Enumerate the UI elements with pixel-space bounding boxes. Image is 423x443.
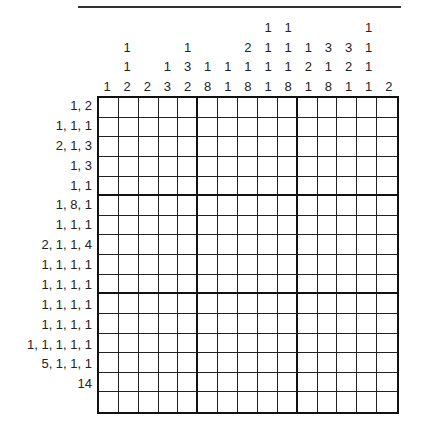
grid-cell[interactable] (278, 353, 298, 373)
grid-cell[interactable] (377, 235, 397, 255)
grid-cell[interactable] (218, 177, 238, 197)
grid-cell[interactable] (258, 216, 278, 236)
grid-cell[interactable] (218, 98, 238, 118)
grid-cell[interactable] (198, 235, 218, 255)
grid-cell[interactable] (159, 294, 179, 314)
grid-cell[interactable] (238, 314, 258, 334)
grid-cell[interactable] (357, 353, 377, 373)
grid-cell[interactable] (298, 314, 318, 334)
grid-cell[interactable] (357, 118, 377, 138)
grid-cell[interactable] (357, 275, 377, 295)
grid-cell[interactable] (198, 118, 218, 138)
grid-cell[interactable] (337, 157, 357, 177)
grid-cell[interactable] (198, 314, 218, 334)
grid-cell[interactable] (377, 177, 397, 197)
grid-cell[interactable] (238, 118, 258, 138)
grid-cell[interactable] (318, 137, 338, 157)
grid-cell[interactable] (337, 177, 357, 197)
grid-cell[interactable] (377, 216, 397, 236)
grid-cell[interactable] (119, 177, 139, 197)
grid-cell[interactable] (357, 137, 377, 157)
grid-cell[interactable] (278, 392, 298, 412)
grid-cell[interactable] (218, 137, 238, 157)
grid-cell[interactable] (159, 216, 179, 236)
grid-cell[interactable] (159, 137, 179, 157)
grid-cell[interactable] (119, 235, 139, 255)
grid-cell[interactable] (318, 334, 338, 354)
grid-cell[interactable] (139, 392, 159, 412)
grid-cell[interactable] (258, 118, 278, 138)
grid-cell[interactable] (119, 196, 139, 216)
grid-cell[interactable] (178, 196, 198, 216)
grid-cell[interactable] (178, 255, 198, 275)
grid-cell[interactable] (278, 137, 298, 157)
grid-cell[interactable] (298, 137, 318, 157)
grid-cell[interactable] (258, 294, 278, 314)
grid-cell[interactable] (337, 255, 357, 275)
grid-cell[interactable] (278, 255, 298, 275)
grid-cell[interactable] (218, 373, 238, 393)
grid-cell[interactable] (258, 334, 278, 354)
grid-cell[interactable] (159, 196, 179, 216)
grid-cell[interactable] (218, 294, 238, 314)
grid-cell[interactable] (318, 216, 338, 236)
grid-cell[interactable] (139, 177, 159, 197)
grid-cell[interactable] (218, 392, 238, 412)
grid-cell[interactable] (159, 98, 179, 118)
grid-cell[interactable] (298, 275, 318, 295)
grid-cell[interactable] (99, 98, 119, 118)
grid-cell[interactable] (377, 373, 397, 393)
grid-cell[interactable] (318, 196, 338, 216)
grid-cell[interactable] (258, 98, 278, 118)
grid-cell[interactable] (159, 314, 179, 334)
grid-cell[interactable] (99, 137, 119, 157)
grid-cell[interactable] (99, 118, 119, 138)
grid-cell[interactable] (258, 235, 278, 255)
grid-cell[interactable] (377, 392, 397, 412)
grid-cell[interactable] (119, 294, 139, 314)
grid-cell[interactable] (278, 216, 298, 236)
grid-cell[interactable] (178, 157, 198, 177)
grid-cell[interactable] (258, 177, 278, 197)
grid-cell[interactable] (278, 314, 298, 334)
grid-cell[interactable] (198, 392, 218, 412)
grid-cell[interactable] (198, 275, 218, 295)
grid-cell[interactable] (357, 196, 377, 216)
grid-cell[interactable] (357, 334, 377, 354)
grid-cell[interactable] (99, 392, 119, 412)
grid-cell[interactable] (357, 294, 377, 314)
grid-cell[interactable] (238, 294, 258, 314)
grid-cell[interactable] (357, 255, 377, 275)
grid-cell[interactable] (178, 98, 198, 118)
grid-cell[interactable] (198, 216, 218, 236)
grid-cell[interactable] (119, 392, 139, 412)
grid-cell[interactable] (178, 373, 198, 393)
grid-cell[interactable] (119, 216, 139, 236)
grid-cell[interactable] (218, 334, 238, 354)
grid-cell[interactable] (178, 294, 198, 314)
grid-cell[interactable] (178, 216, 198, 236)
grid-cell[interactable] (238, 392, 258, 412)
grid-cell[interactable] (198, 137, 218, 157)
grid-cell[interactable] (377, 255, 397, 275)
grid-cell[interactable] (99, 294, 119, 314)
grid-cell[interactable] (357, 392, 377, 412)
grid-cell[interactable] (337, 294, 357, 314)
grid-cell[interactable] (318, 373, 338, 393)
grid-cell[interactable] (238, 353, 258, 373)
grid-cell[interactable] (178, 353, 198, 373)
grid-cell[interactable] (218, 314, 238, 334)
grid-cell[interactable] (119, 98, 139, 118)
grid-cell[interactable] (377, 353, 397, 373)
grid-cell[interactable] (139, 216, 159, 236)
grid-cell[interactable] (318, 275, 338, 295)
grid-cell[interactable] (357, 373, 377, 393)
grid-cell[interactable] (258, 196, 278, 216)
grid-cell[interactable] (357, 177, 377, 197)
grid-cell[interactable] (337, 137, 357, 157)
grid-cell[interactable] (159, 392, 179, 412)
grid-cell[interactable] (99, 334, 119, 354)
grid-cell[interactable] (159, 275, 179, 295)
grid-cell[interactable] (258, 353, 278, 373)
grid-cell[interactable] (318, 255, 338, 275)
